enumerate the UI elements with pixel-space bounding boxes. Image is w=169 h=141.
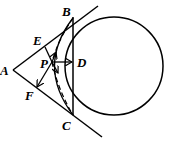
label-a: A (0, 63, 9, 78)
label-e: E (32, 33, 42, 48)
label-c: C (62, 118, 71, 133)
geometry-diagram: A B C D E F P (0, 0, 169, 141)
label-b: B (61, 4, 71, 19)
label-d: D (76, 55, 87, 70)
label-f: F (24, 88, 34, 103)
label-p: P (40, 56, 49, 71)
